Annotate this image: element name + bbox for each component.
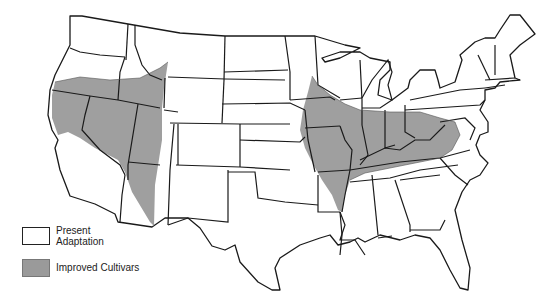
legend-label-improved-cultivars: Improved Cultivars: [56, 262, 139, 273]
legend-label-present-adaptation: Present Adaptation: [56, 225, 104, 247]
legend-item-present-adaptation: Present Adaptation: [22, 225, 139, 247]
present-adaptation-swatch: [22, 227, 50, 245]
improved-cultivars-swatch: [22, 259, 50, 277]
map-legend: Present Adaptation Improved Cultivars: [22, 225, 139, 287]
legend-item-improved-cultivars: Improved Cultivars: [22, 257, 139, 277]
